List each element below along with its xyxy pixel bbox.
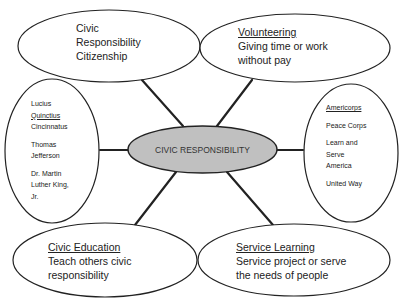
node-top-right-text: Volunteering Giving time or work without… <box>238 25 328 67</box>
connector-top-right <box>217 80 252 126</box>
connector-top-left <box>142 80 183 126</box>
center-node-label: CIVIC RESPONSIBILITY <box>128 126 277 173</box>
node-right-line-2: Learn and <box>326 137 366 149</box>
node-top-right-line-1: Giving time or work <box>238 39 328 53</box>
node-bottom-right-text: Service Learning Service project or serv… <box>236 240 346 282</box>
node-right-line-3: Serve <box>326 149 366 161</box>
node-bottom-right-title: Service Learning <box>236 240 346 254</box>
node-right-line-4: America <box>326 160 366 172</box>
node-left-line-3: Cincinnatus <box>31 121 69 133</box>
node-bottom-right-line-2: the needs of people <box>236 268 346 282</box>
node-right-line-5: United Way <box>326 178 366 190</box>
node-top-left-line-2: Responsibility <box>76 35 141 49</box>
node-bottom-left-line-2: responsibility <box>48 268 131 282</box>
node-top-left-line-1: Civic <box>76 21 141 35</box>
node-left-text: Lucius Quinctius Cincinnatus Thomas Jeff… <box>31 98 69 202</box>
node-top-right-line-2: without pay <box>238 53 328 67</box>
node-right-title: Americorps <box>326 102 366 114</box>
node-left-line-4: Thomas <box>31 139 69 151</box>
node-bottom-left-line-1: Teach others civic <box>48 254 131 268</box>
node-right-line-1: Peace Corps <box>326 120 366 132</box>
node-top-left-text: Civic Responsibility Citizenship <box>76 21 141 63</box>
connector-bottom-left <box>135 172 176 225</box>
node-left-line-6: Dr. Martin <box>31 168 69 180</box>
node-left-line-2: Quinctius <box>31 110 69 122</box>
node-left-line-7: Luther King, <box>31 179 69 191</box>
node-bottom-right-line-1: Service project or serve <box>236 254 346 268</box>
node-bottom-left-text: Civic Education Teach others civic respo… <box>48 240 131 282</box>
connector-bottom-right <box>227 172 273 225</box>
node-top-left-line-3: Citizenship <box>76 49 141 63</box>
node-bottom-left-title: Civic Education <box>48 240 131 254</box>
node-left-line-5: Jefferson <box>31 150 69 162</box>
node-right-text: Americorps Peace Corps Learn and Serve A… <box>326 102 366 189</box>
node-left-line-1: Lucius <box>31 98 69 110</box>
node-left-line-8: Jr. <box>31 191 69 203</box>
node-top-right-title: Volunteering <box>238 25 328 39</box>
